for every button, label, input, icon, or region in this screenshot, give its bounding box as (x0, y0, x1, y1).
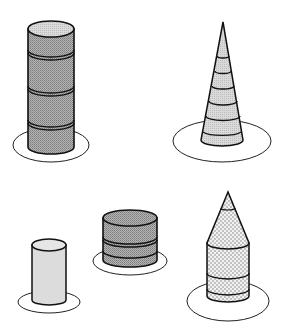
banded-drum (93, 210, 167, 275)
plain-short-cylinder (18, 239, 80, 313)
dotted-pencil (187, 192, 269, 321)
shapes-drawing (0, 0, 285, 333)
tall-banded-cylinder (13, 21, 89, 162)
illustration-canvas (0, 0, 285, 333)
banded-cone (173, 22, 271, 162)
